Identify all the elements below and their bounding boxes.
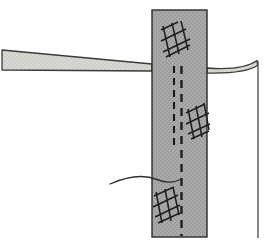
background (0, 0, 275, 250)
connection-detail-drawing (0, 0, 275, 250)
diagram-canvas (0, 0, 275, 250)
